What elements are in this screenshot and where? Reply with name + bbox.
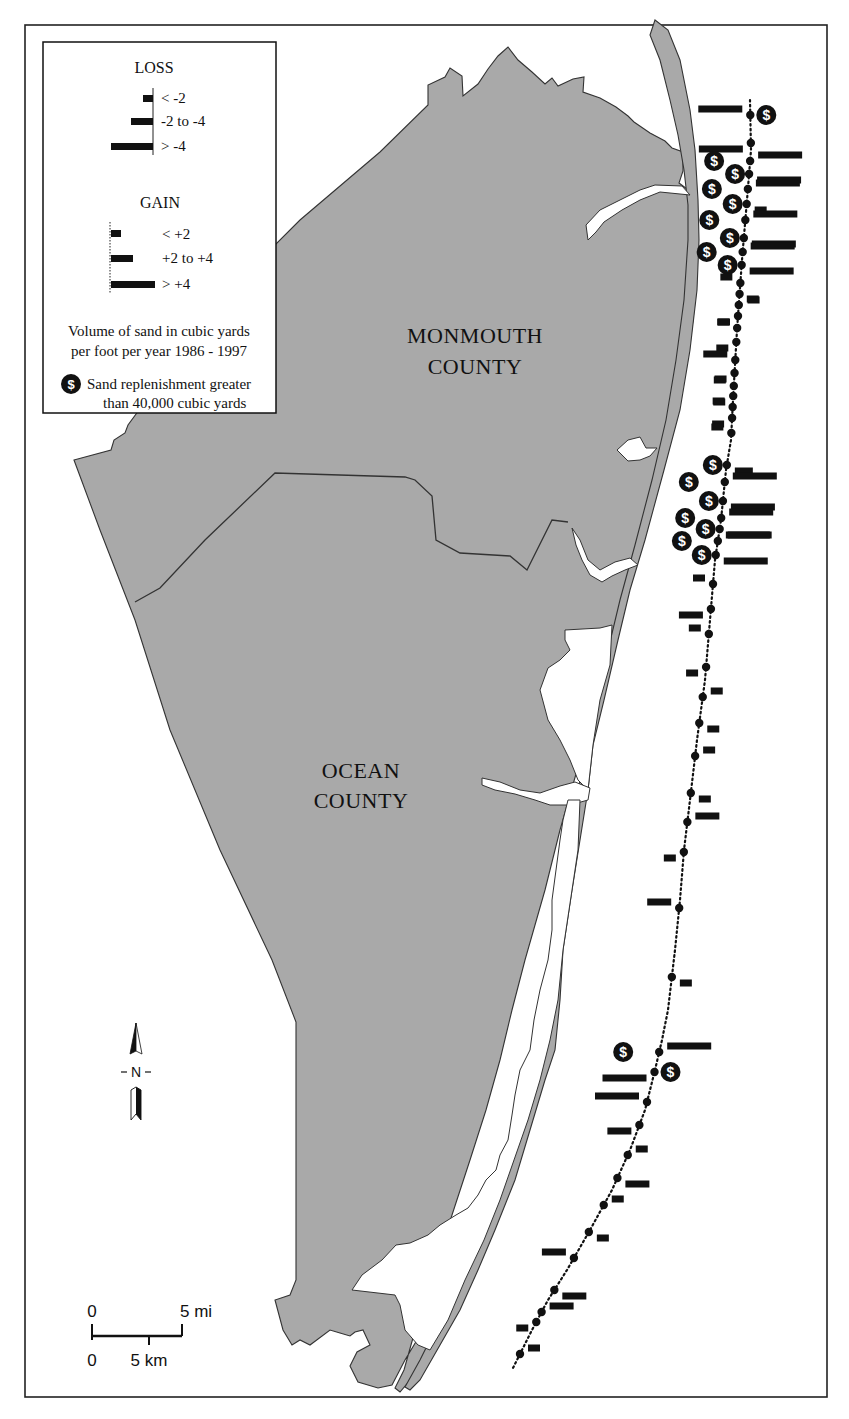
ocean-county-label: OCEAN bbox=[322, 758, 400, 783]
svg-text:$: $ bbox=[729, 196, 737, 212]
loss-bar bbox=[717, 319, 729, 326]
station: $ bbox=[699, 210, 797, 230]
station-dot bbox=[719, 497, 727, 505]
station bbox=[664, 848, 688, 862]
gain-bar bbox=[703, 747, 715, 754]
dollar-circle-icon: $ bbox=[704, 151, 724, 171]
station-dot bbox=[728, 414, 736, 422]
station-dot bbox=[735, 301, 743, 309]
legend-gain-label-2: +2 to +4 bbox=[162, 250, 214, 266]
legend-loss-label-1: < -2 bbox=[161, 90, 186, 106]
station-dot bbox=[687, 789, 695, 797]
station-dot bbox=[728, 403, 736, 411]
gain-bar bbox=[747, 296, 759, 303]
station bbox=[516, 1318, 540, 1332]
station-dot bbox=[731, 356, 739, 364]
station-dot bbox=[680, 848, 688, 856]
station bbox=[720, 274, 744, 288]
svg-text:$: $ bbox=[710, 153, 718, 169]
svg-text:$: $ bbox=[702, 521, 710, 537]
dollar-circle-icon: $ bbox=[718, 255, 738, 275]
station: $ bbox=[702, 179, 800, 199]
station-dot bbox=[702, 663, 710, 671]
station-dot bbox=[721, 478, 729, 486]
legend-loss-bar-small bbox=[143, 95, 153, 102]
dollar-circle-icon: $ bbox=[699, 491, 719, 511]
station bbox=[624, 1146, 648, 1160]
station-dot bbox=[624, 1151, 632, 1159]
station-dot bbox=[570, 1254, 578, 1262]
monmouth-county-label: MONMOUTH bbox=[407, 323, 543, 348]
loss-bar bbox=[711, 424, 723, 431]
dollar-circle-icon: $ bbox=[661, 1062, 681, 1082]
svg-text:$: $ bbox=[705, 493, 713, 509]
legend-replenishment-line-1: Sand replenishment greater bbox=[87, 376, 251, 392]
loss-bar bbox=[542, 1249, 566, 1256]
dollar-circle-icon: $ bbox=[699, 210, 719, 230]
legend-loss-bar-medium bbox=[131, 118, 153, 125]
station bbox=[595, 1093, 651, 1107]
station: $ bbox=[675, 508, 773, 528]
station bbox=[542, 1249, 578, 1263]
station-dot bbox=[585, 1228, 593, 1236]
station-dot bbox=[537, 1308, 545, 1316]
legend-gain-bar-small bbox=[111, 230, 121, 237]
station bbox=[550, 1286, 586, 1300]
loss-bar bbox=[698, 106, 742, 113]
shoreline-change-map: MONMOUTH COUNTY OCEAN COUNTY $$$$$$$$$$$… bbox=[0, 0, 849, 1419]
scale-km-zero: 0 bbox=[87, 1351, 96, 1370]
station-dot bbox=[734, 312, 742, 320]
station-dot bbox=[745, 170, 753, 178]
legend-gain-bar-large bbox=[111, 281, 155, 288]
gain-bar bbox=[758, 152, 802, 159]
station-dot bbox=[714, 537, 722, 545]
station-dot bbox=[736, 279, 744, 287]
legend-loss-label-2: -2 to -4 bbox=[161, 113, 206, 129]
station-dot bbox=[635, 1121, 643, 1129]
svg-text:$: $ bbox=[681, 510, 689, 526]
svg-text:$: $ bbox=[762, 107, 770, 123]
station: $ bbox=[672, 531, 770, 551]
station bbox=[699, 688, 723, 702]
svg-text:$: $ bbox=[698, 547, 706, 563]
loss-bar bbox=[689, 625, 701, 632]
station bbox=[607, 1121, 643, 1135]
loss-bar bbox=[703, 351, 727, 358]
gain-bar bbox=[724, 558, 768, 565]
station bbox=[699, 139, 755, 153]
svg-text:$: $ bbox=[724, 257, 732, 273]
station: $ bbox=[613, 1042, 711, 1062]
loss-bar bbox=[713, 398, 725, 405]
station-dot bbox=[727, 429, 735, 437]
station-dot bbox=[733, 324, 741, 332]
station: $ bbox=[704, 151, 802, 171]
station bbox=[585, 1228, 609, 1242]
legend-loss-heading: LOSS bbox=[134, 59, 173, 76]
legend-replenishment-line-2: than 40,000 cubic yards bbox=[103, 395, 246, 411]
station: $ bbox=[692, 545, 768, 565]
station-dot bbox=[717, 514, 725, 522]
gain-bar bbox=[733, 473, 777, 480]
dollar-circle-icon: $ bbox=[672, 531, 692, 551]
station bbox=[703, 351, 739, 365]
scale-mi-five: 5 mi bbox=[180, 1302, 212, 1321]
gain-bar bbox=[612, 1196, 624, 1203]
legend-loss-label-3: > -4 bbox=[161, 138, 186, 154]
scale-mi-zero: 0 bbox=[87, 1302, 96, 1321]
gain-bar bbox=[695, 813, 719, 820]
scale-km-five: 5 km bbox=[131, 1351, 168, 1370]
station bbox=[687, 789, 711, 803]
monmouth-county-label-2: COUNTY bbox=[428, 354, 523, 379]
station-dot bbox=[707, 605, 715, 613]
svg-text:$: $ bbox=[731, 166, 739, 182]
gain-bar bbox=[729, 509, 773, 516]
gain-bar bbox=[751, 243, 795, 250]
station-dot bbox=[709, 580, 717, 588]
loss-bar bbox=[647, 899, 671, 906]
station-dot bbox=[723, 461, 731, 469]
station bbox=[613, 1174, 649, 1188]
station-dot bbox=[738, 248, 746, 256]
north-arrow-head-icon bbox=[130, 1023, 136, 1054]
station-dot bbox=[532, 1318, 540, 1326]
loss-bar bbox=[516, 1325, 528, 1332]
